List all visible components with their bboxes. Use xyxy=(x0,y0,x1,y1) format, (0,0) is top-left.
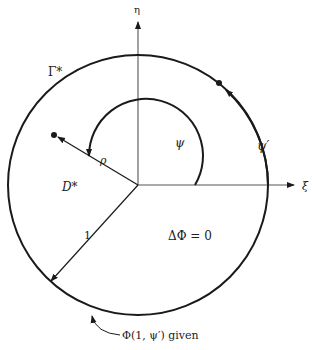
interior-point xyxy=(51,132,57,138)
boundary-condition-label: Φ(1, ψ′) given xyxy=(122,329,199,342)
rho-label: ρ xyxy=(99,154,107,167)
radius-label: 1 xyxy=(84,229,91,242)
laplace-equation: ΔΦ = 0 xyxy=(168,229,212,243)
boundary-point xyxy=(216,80,222,86)
gamma-star-label: Γ* xyxy=(48,65,62,79)
potential-diagram: η ξ Γ* D* ΔΦ = 0 1 ρ ψ ψ′ Φ(1, ψ′) given xyxy=(0,0,312,350)
boundary-condition-leader xyxy=(92,316,120,335)
psi-label: ψ xyxy=(175,136,185,150)
radius-arrow xyxy=(51,185,138,281)
eta-label: η xyxy=(134,4,140,15)
rho-arrow xyxy=(51,132,138,185)
domain-label: D* xyxy=(61,180,78,194)
psi-angle-arc xyxy=(89,99,203,185)
xi-label: ξ xyxy=(302,180,309,193)
psi-prime-label: ψ′ xyxy=(257,139,269,153)
psi-prime-arc xyxy=(216,80,268,185)
